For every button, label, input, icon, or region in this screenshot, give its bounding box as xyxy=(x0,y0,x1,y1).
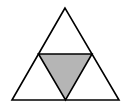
shaded-center-triangle xyxy=(39,54,93,100)
diagram-canvas xyxy=(0,0,124,112)
triangle-diagram xyxy=(0,0,124,112)
